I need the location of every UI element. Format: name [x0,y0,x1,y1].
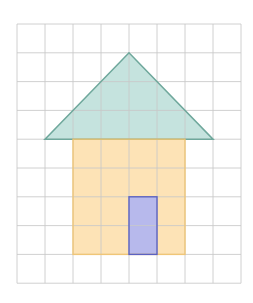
house-grid-diagram [0,0,253,303]
